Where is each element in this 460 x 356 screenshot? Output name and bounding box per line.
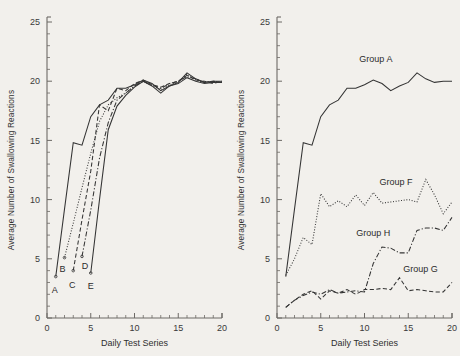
series-label-group-h: Group H xyxy=(356,228,390,238)
x-tick-label: 0 xyxy=(44,323,49,333)
curve-label-c: C xyxy=(69,280,76,290)
x-tick-label: 0 xyxy=(274,323,279,333)
series-label-group-g: Group G xyxy=(403,264,438,274)
x-tick-label: 5 xyxy=(88,323,93,333)
y-tick-label: 5 xyxy=(265,254,270,264)
left-chart-svg: 051015202505101520Daily Test SeriesAvera… xyxy=(0,0,230,356)
y-tick-label: 15 xyxy=(260,136,270,146)
y-tick-label: 10 xyxy=(30,195,40,205)
curve-label-d: D xyxy=(82,261,89,271)
y-tick-label: 0 xyxy=(35,313,40,323)
curve-e xyxy=(91,78,222,273)
x-tick-label: 5 xyxy=(318,323,323,333)
x-tick-label: 15 xyxy=(173,323,183,333)
y-tick-label: 20 xyxy=(260,76,270,86)
x-tick-label: 15 xyxy=(403,323,413,333)
y-tick-label: 0 xyxy=(265,313,270,323)
curve-label-b: B xyxy=(59,264,65,274)
curve-c xyxy=(73,75,222,270)
y-tick-label: 15 xyxy=(30,136,40,146)
curve-start-marker-b xyxy=(63,256,66,259)
y-axis-title: Average Number of Swallowing Reactions xyxy=(7,90,16,250)
x-axis-title: Daily Test Series xyxy=(331,338,398,348)
x-tick-label: 10 xyxy=(129,323,139,333)
curve-label-a: A xyxy=(52,285,58,295)
x-tick-label: 20 xyxy=(447,323,457,333)
right-chart-svg: 051015202505101520Daily Test SeriesAvera… xyxy=(230,0,460,356)
curve-a xyxy=(56,73,222,277)
x-tick-label: 20 xyxy=(217,323,227,333)
curve-group-g xyxy=(286,278,452,308)
y-tick-label: 20 xyxy=(30,76,40,86)
curve-label-e: E xyxy=(88,281,94,291)
series-label-group-f: Group F xyxy=(379,177,413,187)
series-label-group-a: Group A xyxy=(359,54,392,64)
y-tick-label: 25 xyxy=(30,17,40,27)
y-axis-title: Average Number of Swallowing Reactions xyxy=(237,90,246,250)
x-axis-title: Daily Test Series xyxy=(101,338,168,348)
y-tick-label: 10 xyxy=(260,195,270,205)
y-tick-label: 25 xyxy=(260,17,270,27)
right-chart-panel: 051015202505101520Daily Test SeriesAvera… xyxy=(230,0,460,356)
y-tick-label: 5 xyxy=(35,254,40,264)
curve-b xyxy=(65,74,223,258)
x-tick-label: 10 xyxy=(359,323,369,333)
left-chart-panel: 051015202505101520Daily Test SeriesAvera… xyxy=(0,0,230,356)
curve-group-a xyxy=(286,73,452,277)
